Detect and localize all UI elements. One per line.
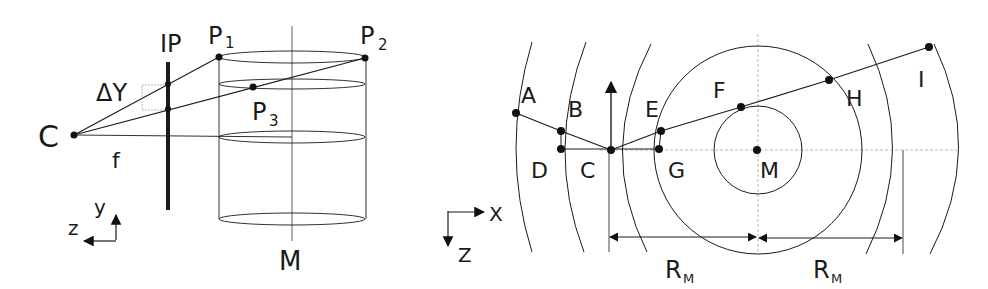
delta-y-bracket [142,85,168,110]
arc-a [516,42,532,252]
arc-b [565,42,586,252]
label-c: C [38,119,59,154]
axes-yz: y z [68,195,116,241]
point-c [607,146,615,154]
label-m: M [279,246,301,276]
label-radius-2: R [813,256,830,284]
point-p2 [362,55,369,62]
right-figure: A B D C E G F M H I R M R M X Z [448,34,960,286]
label-p1-sub: 1 [225,34,235,52]
label-d: D [531,158,548,183]
label-axis-y: y [94,195,106,219]
cylinder [219,26,366,241]
point-p3 [250,84,257,91]
point-p1 [216,54,223,61]
label-m: M [760,158,779,183]
label-e: E [645,97,659,122]
diagram-canvas: IP C f ΔY P 1 P 2 P 3 M y z [0,0,988,289]
point-i [925,43,933,51]
label-b: B [568,97,583,122]
point-m [753,146,761,154]
label-a: A [521,83,536,108]
point-d [557,145,565,153]
label-p1: P [208,22,222,50]
label-delta-y: ΔY [96,79,127,107]
label-i: I [918,67,925,92]
point-c [71,132,78,139]
label-radius-1: R [665,256,682,284]
label-axis-x: X [489,202,503,226]
label-radius-1-sub: M [683,271,694,286]
label-f: f [112,148,121,173]
point-b [557,127,565,135]
optical-axis [74,135,292,137]
point-e [657,127,665,135]
point-ip-lower [165,106,171,112]
point-a [512,109,520,117]
label-c: C [580,158,595,183]
label-p2-sub: 2 [378,36,388,54]
label-g: G [668,158,685,183]
dimension-radius: R M R M [609,150,903,286]
arc-h [866,44,893,254]
label-p3-sub: 3 [269,112,279,130]
label-axis-z: z [68,216,79,240]
point-f [737,103,745,111]
point-ip-upper [165,81,171,87]
axes-xz: X Z [448,202,503,267]
point-h [825,76,833,84]
label-ip: IP [160,30,182,58]
arc-c [622,44,651,252]
label-h: H [846,86,863,111]
label-f: F [713,78,726,103]
point-g [655,145,663,153]
label-radius-2-sub: M [831,271,842,286]
left-figure: IP C f ΔY P 1 P 2 P 3 M y z [38,22,388,276]
label-p3: P [252,98,266,126]
label-p2: P [360,22,374,50]
arc-i [930,44,959,254]
label-axis-z: Z [458,243,472,267]
